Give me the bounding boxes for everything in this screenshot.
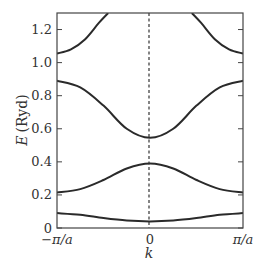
svg-text:E(Ryd): E(Ryd) (14, 94, 30, 146)
energy-bands (57, 13, 243, 221)
band-line (57, 13, 108, 54)
band-line (192, 13, 243, 54)
y-tick-label: 1.2 (31, 22, 52, 37)
band-line (57, 81, 243, 138)
y-tick-label: 0.6 (31, 121, 52, 136)
band-structure-chart: 00.20.40.60.81.01.2 −π/a0π/a k E(Ryd) (0, 0, 265, 266)
x-tick-label: π/a (232, 232, 254, 247)
y-axis-label-unit: (Ryd) (14, 94, 30, 132)
y-tick-label: 0.2 (31, 187, 52, 202)
plot-frame (57, 13, 243, 228)
y-axis-label: E(Ryd) (14, 94, 30, 146)
y-axis-label-variable: E (14, 135, 30, 146)
band-line (57, 164, 243, 193)
y-tick-label: 0.4 (31, 154, 52, 169)
x-axis-label: k (145, 245, 153, 261)
y-tick-label: 1.0 (31, 55, 52, 70)
y-axis-ticks: 00.20.40.60.81.01.2 (31, 22, 243, 235)
band-line (57, 213, 243, 221)
y-tick-label: 0.8 (31, 88, 52, 103)
x-tick-label: −π/a (41, 232, 73, 247)
